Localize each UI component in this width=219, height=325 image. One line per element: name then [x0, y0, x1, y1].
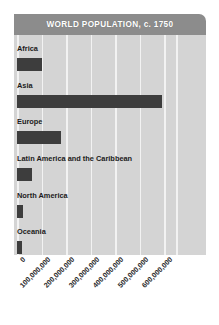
chart-figure: WORLD POPULATION, c. 1750 AfricaAsiaEuro…	[14, 14, 206, 325]
bar-row: Oceania	[14, 218, 206, 255]
category-label: Africa	[17, 44, 38, 53]
chart-title-bar: WORLD POPULATION, c. 1750	[14, 14, 206, 35]
bar-row: Latin America and the Caribbean	[14, 145, 206, 182]
bar	[17, 95, 162, 108]
bar	[17, 168, 32, 181]
category-label: Oceania	[17, 227, 46, 236]
bar-row: Africa	[14, 35, 206, 72]
x-axis: 0100,000,000200,000,000300,000,000400,00…	[14, 255, 206, 325]
plot-area: AfricaAsiaEuropeLatin America and the Ca…	[14, 35, 206, 255]
category-label: Europe	[17, 117, 42, 126]
chart-title: WORLD POPULATION, c. 1750	[47, 20, 174, 29]
bar	[17, 205, 23, 218]
bar	[17, 58, 42, 71]
bar	[17, 131, 61, 144]
bar-row: North America	[14, 182, 206, 219]
x-tick-label: 0	[18, 255, 27, 264]
bar-row: Europe	[14, 108, 206, 145]
bar	[17, 241, 22, 254]
category-label: Asia	[17, 81, 33, 90]
bar-row: Asia	[14, 72, 206, 109]
category-label: Latin America and the Caribbean	[17, 154, 132, 163]
category-label: North America	[17, 191, 68, 200]
